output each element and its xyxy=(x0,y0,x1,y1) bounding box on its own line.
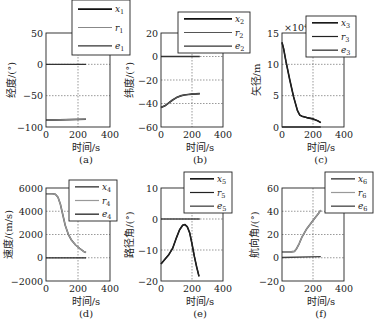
y-tick-label: −50 xyxy=(23,90,43,101)
series-group xyxy=(161,219,200,276)
y-tick-label: −100 xyxy=(17,122,43,133)
y-tick-label: 0 xyxy=(152,214,158,225)
x-tick-label: 200 xyxy=(69,129,87,140)
x-tick-label: 200 xyxy=(304,283,322,294)
legend: x6r6e6 xyxy=(325,172,373,213)
y-tick-label: 20 xyxy=(267,229,279,240)
x-axis-label: 时间/s xyxy=(186,141,215,153)
x-tick-label: 400 xyxy=(214,283,232,294)
y-tick-label: 2000 xyxy=(19,229,43,240)
y-tick-label: 20 xyxy=(146,28,158,39)
subplot-caption: (a) xyxy=(79,154,93,165)
x-tick-label: 0 xyxy=(158,129,164,140)
series-r2 xyxy=(161,94,200,108)
x-tick-label: 0 xyxy=(43,283,49,294)
subplot-d: 6000400020000−20000200400时间/s(d)速度/(m/s)… xyxy=(2,180,120,319)
y-tick-label: 0 xyxy=(152,51,158,62)
y-axis-label: 速度/(m/s) xyxy=(2,210,14,259)
y-axis-label: 航向角/(°) xyxy=(248,211,260,257)
y-tick-label: −40 xyxy=(138,98,158,109)
y-tick-label: 0 xyxy=(37,59,43,70)
y-tick-label: 10 xyxy=(267,59,279,70)
series-r5 xyxy=(161,225,199,277)
subplot-caption: (b) xyxy=(193,154,207,165)
figure-canvas: 500−50−1000200400时间/s(a)经度/(°)x1r1e1200−… xyxy=(0,0,377,328)
y-tick-label: 15 xyxy=(267,28,279,39)
y-tick-label: −2000 xyxy=(11,276,43,287)
x-tick-label: 400 xyxy=(335,129,353,140)
subplot-b: 200−20−40−600200400时间/s(b)纬度/(°)x2r2e2 xyxy=(123,12,251,165)
x-axis-label: 时间/s xyxy=(72,295,101,307)
legend: x2r2e2 xyxy=(178,12,250,53)
y-tick-label: 40 xyxy=(267,206,279,217)
x-tick-label: 0 xyxy=(279,283,285,294)
y-tick-label: −10 xyxy=(138,245,158,256)
y-tick-label: 0 xyxy=(273,252,279,263)
y-tick-label: 6000 xyxy=(19,183,43,194)
series-group xyxy=(161,57,200,108)
series-e6 xyxy=(282,257,321,258)
subplot-a: 500−50−1000200400时间/s(a)经度/(°)x1r1e1 xyxy=(5,0,131,165)
y-tick-label: −60 xyxy=(138,122,158,133)
series-group xyxy=(46,64,86,120)
subplot-c: 1510500200400×10⁴时间/s(c)矢径/mx3r3e3 xyxy=(250,16,357,165)
x-tick-label: 400 xyxy=(335,283,353,294)
y-axis-label: 纬度/(°) xyxy=(123,62,135,98)
y-tick-label: 10 xyxy=(146,183,158,194)
y-tick-label: 60 xyxy=(267,183,279,194)
x-tick-label: 400 xyxy=(101,129,119,140)
y-axis-label: 矢径/m xyxy=(250,63,262,96)
y-tick-label: 5 xyxy=(273,90,279,101)
x-tick-label: 400 xyxy=(214,129,232,140)
subplot-caption: (e) xyxy=(193,308,207,319)
y-axis-label: 经度/(°) xyxy=(5,62,17,98)
series-r6 xyxy=(282,210,321,252)
subplot-e: 100−10−200200400时间/s(e)路径角/(°)x5r5e5 xyxy=(123,172,233,319)
legend: x4r4e4 xyxy=(69,180,117,221)
x-tick-label: 0 xyxy=(43,129,49,140)
x-axis-label: 时间/s xyxy=(72,141,101,153)
series-x6 xyxy=(282,210,321,252)
y-tick-label: −20 xyxy=(138,276,158,287)
legend: x1r1e1 xyxy=(72,0,130,55)
legend: x5r5e5 xyxy=(184,172,232,213)
x-tick-label: 0 xyxy=(279,129,285,140)
subplot-caption: (d) xyxy=(79,308,93,319)
x-axis-label: 时间/s xyxy=(307,295,336,307)
subplot-caption: (c) xyxy=(314,154,328,165)
y-tick-label: −20 xyxy=(259,276,279,287)
y-tick-label: 4000 xyxy=(19,206,43,217)
x-tick-label: 200 xyxy=(304,129,322,140)
y-tick-label: 0 xyxy=(37,252,43,263)
x-tick-label: 200 xyxy=(183,129,201,140)
x-tick-label: 0 xyxy=(158,283,164,294)
x-axis-label: 时间/s xyxy=(307,141,336,153)
y-tick-label: 50 xyxy=(31,28,43,39)
subplot-caption: (f) xyxy=(315,308,327,319)
series-group xyxy=(282,210,321,257)
subplot-f: 6040200−200200400时间/s(f)航向角/(°)x6r6e6 xyxy=(248,172,374,319)
legend: x3r3e3 xyxy=(306,16,356,57)
x-tick-label: 200 xyxy=(69,283,87,294)
x-tick-label: 200 xyxy=(183,283,201,294)
y-tick-label: −20 xyxy=(138,75,158,86)
y-axis-label: 路径角/(°) xyxy=(123,211,135,257)
x-axis-label: 时间/s xyxy=(186,295,215,307)
x-tick-label: 400 xyxy=(101,283,119,294)
axis-multiplier: ×10⁴ xyxy=(284,22,308,33)
